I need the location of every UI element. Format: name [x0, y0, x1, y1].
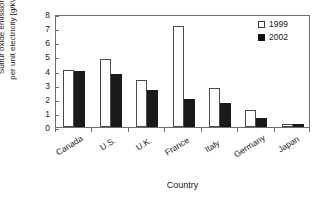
- y-tick-label: 3: [32, 81, 50, 90]
- x-category-label: Italy: [203, 138, 222, 155]
- bar-group: [209, 16, 231, 127]
- x-category-label: Japan: [276, 134, 301, 155]
- bar-canada-1999: [63, 70, 74, 127]
- y-tick-mark: [56, 30, 59, 31]
- y-tick-label: 2: [32, 96, 50, 105]
- y-axis-title: Sulfur oxide emissions per unit electric…: [0, 0, 27, 90]
- x-category-label: France: [163, 135, 191, 158]
- y-tick-label: 1: [32, 110, 50, 119]
- y-axis-title-line2: per unit electricity [g/kWh]: [8, 0, 19, 90]
- bar-group: [100, 16, 122, 127]
- y-tick-mark: [56, 16, 59, 17]
- bar-uk-2002: [147, 90, 158, 127]
- legend-label-1999: 1999: [269, 20, 288, 29]
- legend-label-2002: 2002: [269, 33, 288, 42]
- y-tick-label: 8: [32, 11, 50, 20]
- y-tick-mark: [56, 87, 59, 88]
- bar-group: [173, 16, 195, 127]
- y-tick-label: 6: [32, 39, 50, 48]
- y-tick-label: 5: [32, 53, 50, 62]
- x-category-label: Canada: [54, 133, 85, 157]
- y-tick-mark: [56, 101, 59, 102]
- y-tick-mark: [56, 44, 59, 45]
- bar-us-1999: [100, 59, 111, 127]
- bar-germany-1999: [245, 110, 256, 127]
- x-category-label: U.K.: [134, 135, 153, 152]
- legend-item-1999: 1999: [258, 19, 306, 30]
- y-tick-label: 7: [32, 25, 50, 34]
- x-axis-title: Country: [55, 180, 310, 190]
- bar-japan-1999: [282, 124, 293, 127]
- x-category-label: Germany: [232, 133, 267, 160]
- y-axis-title-line1: Sulfur oxide emissions: [0, 0, 8, 90]
- legend-item-2002: 2002: [258, 32, 306, 43]
- bar-germany-2002: [256, 118, 267, 127]
- x-axis-category-labels: CanadaU.S.U.K.FranceItalyGermanyJapan: [0, 128, 324, 176]
- bar-france-1999: [173, 26, 184, 127]
- y-tick-mark: [56, 73, 59, 74]
- bar-group: [63, 16, 85, 127]
- bar-japan-2002: [293, 124, 304, 127]
- y-tick-label: 4: [32, 67, 50, 76]
- bar-uk-1999: [136, 80, 147, 127]
- chart-figure: Sulfur oxide emissions per unit electric…: [0, 0, 324, 202]
- bar-group: [136, 16, 158, 127]
- bar-us-2002: [111, 74, 122, 127]
- legend-swatch-1999: [258, 21, 265, 28]
- bar-france-2002: [184, 99, 195, 127]
- y-tick-mark: [56, 115, 59, 116]
- bar-italy-1999: [209, 88, 220, 127]
- y-axis-tick-labels: 012345678: [32, 15, 50, 128]
- bar-italy-2002: [220, 103, 231, 127]
- x-category-label: U.S.: [98, 135, 117, 152]
- legend-swatch-2002: [258, 34, 265, 41]
- bar-canada-2002: [74, 71, 85, 127]
- y-tick-mark: [56, 58, 59, 59]
- chart-legend: 1999 2002: [258, 19, 306, 45]
